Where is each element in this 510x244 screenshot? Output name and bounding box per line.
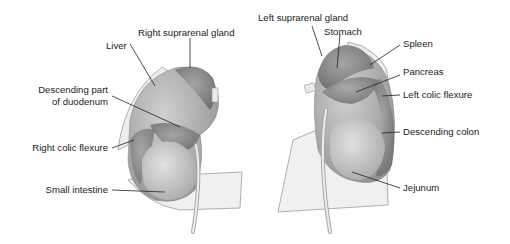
label-pancreas: Pancreas — [403, 66, 444, 77]
label-descending-colon: Descending colon — [403, 126, 479, 137]
left-kidney-figure — [278, 42, 395, 232]
leader-left-suprarenal — [312, 26, 322, 56]
label-spleen: Spleen — [403, 38, 433, 49]
label-jejunum: Jejunum — [403, 182, 439, 193]
kidney-relations-diagram: Right suprarenal gland Liver Descending … — [0, 0, 510, 244]
label-small-intestine: Small intestine — [46, 184, 108, 195]
label-left-colic-flexure: Left colic flexure — [403, 89, 472, 100]
right-suprarenal-tab — [212, 88, 218, 102]
label-right-suprarenal-gland: Right suprarenal gland — [138, 27, 235, 38]
label-stomach: Stomach — [324, 26, 362, 37]
label-liver: Liver — [106, 40, 127, 51]
label-right-colic-flexure: Right colic flexure — [32, 142, 108, 153]
label-descending-duodenum-line2: of duodenum — [52, 96, 108, 107]
leader-liver — [130, 44, 155, 86]
left-suprarenal-tab — [304, 83, 316, 93]
right-kidney-figure — [118, 66, 242, 232]
label-descending-duodenum-line1: Descending part — [38, 84, 108, 95]
label-left-suprarenal-gland: Left suprarenal gland — [258, 12, 348, 23]
